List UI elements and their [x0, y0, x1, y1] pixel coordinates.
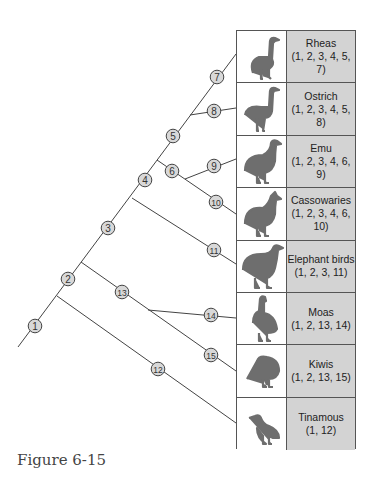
node-label: 9	[211, 161, 217, 172]
character-node: 6	[165, 164, 179, 178]
node-label: 12	[153, 365, 163, 375]
node-label: 4	[142, 175, 148, 186]
taxon-row: Elephant birds(1, 2, 3, 11)	[237, 241, 355, 293]
taxon-characters: (1, 2, 13, 15)	[291, 371, 351, 384]
taxon-label-cell: Moas(1, 2, 13, 14)	[287, 293, 355, 344]
character-node: 13	[115, 285, 129, 299]
node-label: 6	[169, 166, 175, 177]
taxon-label-cell: Tinamous(1, 12)	[287, 398, 355, 450]
taxon-characters: (1, 2, 3, 4, 6, 9)	[287, 155, 355, 181]
node-label: 15	[206, 351, 216, 361]
taxon-name: Tinamous	[298, 411, 344, 424]
node-label: 13	[117, 288, 127, 298]
emu-silhouette-icon	[239, 137, 285, 185]
cassowary-silhouette-icon	[239, 190, 285, 238]
taxon-label-cell: Rheas(1, 2, 3, 4, 5, 7)	[287, 31, 355, 82]
taxon-image-cell	[237, 241, 287, 292]
taxon-name: Rheas	[306, 37, 336, 50]
node-label: 7	[214, 72, 220, 83]
taxon-name: Moas	[308, 306, 334, 319]
taxon-row: Kiwis(1, 2, 13, 15)	[237, 345, 355, 397]
taxon-image-cell	[237, 83, 287, 134]
taxon-label-cell: Ostrich(1, 2, 3, 4, 5, 8)	[287, 83, 355, 134]
node-label: 10	[211, 198, 221, 208]
node-label: 3	[105, 223, 111, 234]
character-node: 5	[166, 129, 180, 143]
taxon-row: Rheas(1, 2, 3, 4, 5, 7)	[237, 31, 355, 83]
taxon-characters: (1, 12)	[306, 424, 336, 437]
taxon-image-cell	[237, 398, 287, 450]
character-node: 4	[138, 173, 152, 187]
node-label: 5	[170, 131, 176, 142]
character-node: 15	[204, 348, 218, 362]
taxon-label-cell: Emu(1, 2, 3, 4, 6, 9)	[287, 136, 355, 187]
taxon-name: Emu	[310, 142, 332, 155]
taxon-image-cell	[237, 345, 287, 396]
taxon-row: Tinamous(1, 12)	[237, 398, 355, 450]
character-node: 3	[101, 221, 115, 235]
node-label: 8	[211, 106, 217, 117]
node-label: 11	[210, 246, 219, 256]
taxon-image-cell	[237, 293, 287, 344]
taxon-image-cell	[237, 188, 287, 239]
character-node: 7	[210, 70, 224, 84]
taxon-row: Emu(1, 2, 3, 4, 6, 9)	[237, 136, 355, 188]
character-node: 1	[28, 319, 42, 333]
character-node: 12	[151, 362, 165, 376]
branch-moas	[148, 310, 236, 318]
character-node: 8	[207, 104, 221, 118]
taxon-name: Ostrich	[304, 90, 337, 103]
taxon-characters: (1, 2, 13, 14)	[291, 319, 351, 332]
taxa-table: Rheas(1, 2, 3, 4, 5, 7)Ostrich(1, 2, 3, …	[236, 30, 356, 449]
kiwi-silhouette-icon	[239, 347, 285, 395]
taxon-name: Kiwis	[309, 358, 334, 371]
character-node: 2	[61, 272, 75, 286]
elephant-bird-silhouette-icon	[239, 242, 285, 290]
taxon-characters: (1, 2, 3, 4, 5, 7)	[287, 50, 355, 76]
moa-silhouette-icon	[239, 295, 285, 343]
rhea-silhouette-icon	[239, 33, 285, 81]
taxon-name: Cassowaries	[291, 194, 351, 207]
taxon-row: Ostrich(1, 2, 3, 4, 5, 8)	[237, 83, 355, 135]
taxon-characters: (1, 2, 3, 11)	[295, 266, 348, 279]
taxon-image-cell	[237, 136, 287, 187]
tinamou-silhouette-icon	[239, 400, 285, 448]
node-label: 2	[65, 274, 71, 285]
taxon-characters: (1, 2, 3, 4, 6, 10)	[287, 207, 355, 233]
taxon-image-cell	[237, 31, 287, 82]
taxon-row: Moas(1, 2, 13, 14)	[237, 293, 355, 345]
character-node: 14	[204, 308, 218, 322]
trunk-line	[18, 54, 236, 347]
taxon-row: Cassowaries(1, 2, 3, 4, 6, 10)	[237, 188, 355, 240]
character-node: 9	[207, 159, 221, 173]
taxon-name: Elephant birds	[287, 253, 354, 266]
node-label: 1	[32, 321, 38, 332]
node-label: 14	[206, 311, 216, 321]
taxon-label-cell: Kiwis(1, 2, 13, 15)	[287, 345, 355, 396]
taxon-label-cell: Elephant birds(1, 2, 3, 11)	[287, 241, 355, 292]
taxon-characters: (1, 2, 3, 4, 5, 8)	[287, 103, 355, 129]
character-node: 11	[207, 243, 221, 257]
branch-elephant-birds	[132, 198, 236, 264]
character-node: 10	[209, 195, 223, 209]
figure-caption: Figure 6-15	[17, 451, 106, 469]
taxon-label-cell: Cassowaries(1, 2, 3, 4, 6, 10)	[287, 188, 355, 239]
ostrich-silhouette-icon	[239, 85, 285, 133]
